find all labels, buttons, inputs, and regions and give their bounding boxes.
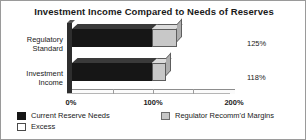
bar-segment-current-reserve-needs-top: [72, 58, 158, 63]
bar-segment-current-reserve-needs: [72, 63, 152, 81]
x-tick-150: [193, 89, 194, 94]
bar-investment-income[interactable]: [72, 63, 166, 81]
category-label-investment-income: Investment Income: [1, 69, 63, 87]
chart-title: Investment Income Compared to Needs of R…: [1, 6, 306, 17]
bar-segment-regulator-margins-side: [177, 18, 182, 42]
legend-label: Regulator Recomm'd Margins: [175, 111, 274, 120]
category-label-line1: Investment: [1, 69, 63, 78]
x-axis-label-100: 100%: [138, 98, 168, 107]
bar-segment-current-reserve-needs-top: [72, 24, 158, 29]
chart-legend: Current Reserve Needs Excess Regulator R…: [1, 111, 306, 139]
bar-segment-regulator-margins: [152, 63, 166, 81]
bar-regulatory-standard[interactable]: [72, 29, 177, 47]
legend-swatch-icon: [17, 123, 26, 131]
value-label-regulatory-standard: 125%: [247, 39, 266, 48]
plot-area: [67, 23, 235, 93]
legend-label: Excess: [31, 122, 55, 131]
legend-swatch-icon: [17, 112, 26, 120]
bar-segment-regulator-margins: [152, 29, 177, 47]
axis-wall-left-top: [67, 20, 75, 23]
category-label-line2: Standard: [1, 44, 63, 53]
category-label-line2: Income: [1, 78, 63, 87]
bar-segment-current-reserve-needs: [72, 29, 152, 47]
x-tick-50: [113, 89, 114, 94]
legend-swatch-icon: [161, 112, 170, 120]
legend-label: Current Reserve Needs: [31, 111, 110, 120]
plot-floor-front: [67, 93, 230, 94]
x-tick-100: [153, 89, 154, 94]
category-label-line1: Regulatory: [1, 35, 63, 44]
category-label-regulatory-standard: Regulatory Standard: [1, 35, 63, 53]
chart-container: Investment Income Compared to Needs of R…: [0, 0, 306, 140]
value-label-investment-income: 118%: [247, 73, 266, 82]
x-axis-label-0: 0%: [56, 98, 86, 107]
bar-segment-regulator-margins-side: [166, 52, 171, 76]
x-axis-label-200: 200%: [219, 98, 249, 107]
